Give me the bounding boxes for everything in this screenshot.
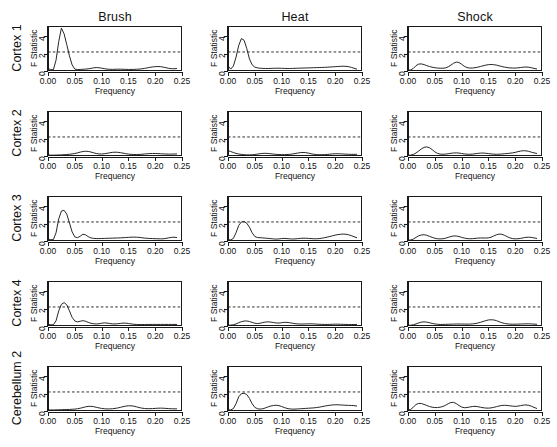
x-tick-label-cortex-3-heat-2: 0.10 [273, 247, 290, 256]
y-axis-spine-cortex-2-brush [47, 111, 48, 156]
row-label-cortex-4: Cortex 4 [10, 258, 24, 348]
plot-area-cerebellum-2-heat [228, 366, 362, 411]
y-axis-label-cortex-4-brush: F Statistic [30, 277, 39, 329]
x-axis-label-cortex-1-shock: Frequency [408, 87, 542, 96]
x-tick-label-cortex-4-brush-4: 0.20 [147, 332, 164, 341]
plot-area-cortex-2-shock [408, 111, 542, 156]
x-tick-label-cortex-4-shock-5: 0.25 [534, 332, 551, 341]
y-axis-label-cortex-4-shock: F Statistic [390, 277, 399, 329]
x-tick-label-cortex-2-heat-5: 0.25 [354, 162, 371, 171]
x-tick-label-cortex-3-heat-3: 0.15 [300, 247, 317, 256]
x-tick-label-cerebellum-2-shock-0: 0.00 [400, 417, 417, 426]
x-axis-spine-cortex-2-shock [408, 157, 542, 158]
x-axis-cortex-4-heat: 0.000.050.100.150.200.25Frequency [228, 327, 362, 353]
y-tick-label-cerebellum-2-shock-0: 0 [399, 411, 408, 416]
x-tick-label-cortex-1-brush-0: 0.00 [40, 77, 57, 86]
y-tick-label-cortex-3-brush-2: 4 [39, 206, 48, 211]
x-axis-cortex-2-shock: 0.000.050.100.150.200.25Frequency [408, 157, 542, 183]
x-tick-label-cortex-2-brush-5: 0.25 [174, 162, 191, 171]
x-axis-label-cortex-2-brush: Frequency [48, 172, 182, 181]
series-line-cerebellum-2-brush [48, 406, 177, 410]
column-header-shock: Shock [408, 10, 542, 24]
x-tick-label-cortex-2-brush-0: 0.00 [40, 162, 57, 171]
column-header-heat: Heat [228, 10, 362, 24]
y-tick-label-cortex-4-heat-1: 2 [219, 308, 228, 313]
x-tick-label-cortex-1-brush-1: 0.05 [67, 77, 84, 86]
plot-area-cortex-3-heat [228, 196, 362, 241]
x-tick-label-cerebellum-2-heat-3: 0.15 [300, 417, 317, 426]
x-axis-spine-cortex-1-brush [48, 72, 182, 73]
x-axis-spine-cortex-1-heat [228, 72, 362, 73]
series-line-cortex-1-brush [48, 28, 177, 70]
x-axis-cerebellum-2-heat: 0.000.050.100.150.200.25Frequency [228, 412, 362, 438]
x-tick-label-cortex-1-heat-0: 0.00 [220, 77, 237, 86]
x-tick-label-cortex-2-shock-4: 0.20 [507, 162, 524, 171]
y-tick-label-cortex-3-brush-0: 0 [39, 241, 48, 246]
series-line-cortex-3-heat [228, 222, 357, 240]
y-axis-spine-cortex-1-brush [47, 26, 48, 71]
series-line-cortex-4-shock [408, 320, 537, 326]
x-tick-label-cortex-3-brush-1: 0.05 [67, 247, 84, 256]
y-tick-label-cortex-3-shock-0: 0 [399, 241, 408, 246]
x-tick-label-cortex-4-shock-3: 0.15 [480, 332, 497, 341]
x-axis-cortex-3-shock: 0.000.050.100.150.200.25Frequency [408, 242, 542, 268]
y-tick-label-cortex-4-shock-2: 4 [399, 291, 408, 296]
y-tick-label-cerebellum-2-heat-1: 2 [219, 393, 228, 398]
plot-area-cortex-3-brush [48, 196, 182, 241]
column-header-brush: Brush [48, 10, 182, 24]
y-axis-spine-cortex-4-shock [407, 281, 408, 326]
x-axis-spine-cortex-2-heat [228, 157, 362, 158]
x-tick-label-cerebellum-2-shock-1: 0.05 [427, 417, 444, 426]
y-axis-label-cerebellum-2-heat: F Statistic [210, 362, 219, 414]
y-axis-spine-cortex-2-shock [407, 111, 408, 156]
plot-area-cortex-4-heat [228, 281, 362, 326]
x-tick-label-cerebellum-2-shock-3: 0.15 [480, 417, 497, 426]
x-tick-label-cerebellum-2-brush-0: 0.00 [40, 417, 57, 426]
plot-area-cortex-3-shock [408, 196, 542, 241]
x-axis-cortex-1-heat: 0.000.050.100.150.200.25Frequency [228, 72, 362, 98]
x-axis-label-cortex-1-heat: Frequency [228, 87, 362, 96]
y-tick-label-cortex-2-brush-1: 2 [39, 138, 48, 143]
y-tick-label-cerebellum-2-brush-0: 0 [39, 411, 48, 416]
y-tick-label-cortex-2-brush-0: 0 [39, 156, 48, 161]
x-tick-label-cerebellum-2-brush-3: 0.15 [120, 417, 137, 426]
x-tick-label-cerebellum-2-heat-1: 0.05 [247, 417, 264, 426]
plot-area-cortex-1-shock [408, 26, 542, 71]
x-tick-label-cortex-4-shock-4: 0.20 [507, 332, 524, 341]
y-axis-spine-cerebellum-2-brush [47, 366, 48, 411]
x-tick-label-cortex-2-brush-2: 0.10 [93, 162, 110, 171]
x-tick-label-cortex-4-brush-5: 0.25 [174, 332, 191, 341]
x-tick-label-cortex-4-brush-1: 0.05 [67, 332, 84, 341]
x-axis-spine-cortex-4-brush [48, 327, 182, 328]
y-axis-spine-cortex-4-heat [227, 281, 228, 326]
y-tick-label-cortex-3-shock-1: 2 [399, 223, 408, 228]
x-axis-cortex-1-brush: 0.000.050.100.150.200.25Frequency [48, 72, 182, 98]
y-axis-spine-cortex-3-brush [47, 196, 48, 241]
x-tick-label-cortex-4-heat-5: 0.25 [354, 332, 371, 341]
x-tick-label-cerebellum-2-heat-4: 0.20 [327, 417, 344, 426]
y-tick-label-cortex-1-heat-1: 2 [219, 53, 228, 58]
y-tick-label-cortex-1-shock-0: 0 [399, 71, 408, 76]
x-tick-label-cortex-1-heat-1: 0.05 [247, 77, 264, 86]
panel-cortex-4-heat [228, 281, 362, 326]
x-axis-spine-cortex-3-brush [48, 242, 182, 243]
plot-area-cortex-1-brush [48, 26, 182, 71]
panel-cortex-2-heat [228, 111, 362, 156]
x-axis-label-cortex-4-brush: Frequency [48, 342, 182, 351]
x-tick-label-cerebellum-2-brush-2: 0.10 [93, 417, 110, 426]
plot-area-cerebellum-2-brush [48, 366, 182, 411]
x-axis-cortex-1-shock: 0.000.050.100.150.200.25Frequency [408, 72, 542, 98]
x-tick-label-cortex-3-brush-3: 0.15 [120, 247, 137, 256]
x-tick-label-cerebellum-2-brush-1: 0.05 [67, 417, 84, 426]
y-axis-label-cerebellum-2-brush: F Statistic [30, 362, 39, 414]
y-axis-label-cortex-2-heat: F Statistic [210, 107, 219, 159]
y-axis-spine-cortex-1-shock [407, 26, 408, 71]
x-tick-label-cortex-2-brush-4: 0.20 [147, 162, 164, 171]
x-tick-label-cortex-1-brush-5: 0.25 [174, 77, 191, 86]
x-axis-spine-cortex-4-shock [408, 327, 542, 328]
panel-cerebellum-2-shock [408, 366, 542, 411]
x-tick-label-cortex-3-shock-2: 0.10 [453, 247, 470, 256]
plot-area-cortex-4-brush [48, 281, 182, 326]
y-axis-label-cortex-4-heat: F Statistic [210, 277, 219, 329]
x-tick-label-cortex-1-brush-4: 0.20 [147, 77, 164, 86]
